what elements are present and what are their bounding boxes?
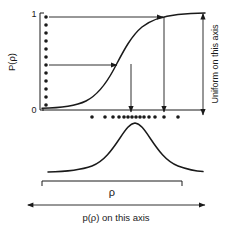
uniform-axis-label: Uniform on this axis [210,24,220,104]
mapped-dot [134,115,138,119]
uniform-dot [44,95,48,99]
uniform-sample-dots-vertical [44,15,48,107]
mapped-dot [138,115,142,119]
figure-container: P(ρ) 1 0 [0,0,232,227]
pdf-gaussian-curve [48,123,203,172]
pdf-axis-label: p(ρ) on this axis [82,212,149,223]
uniform-axis-annotation: Uniform on this axis [203,14,220,115]
uniform-dot [44,31,48,35]
mapped-sample-dots-horizontal [90,115,180,119]
mapped-dot [111,115,115,119]
mapped-dot [153,115,157,119]
y-axis-label-group: P(ρ) [6,53,17,71]
mapping-arrows-vertical [131,17,164,112]
figure-svg: P(ρ) 1 0 [0,0,232,227]
mapped-dot [126,115,130,119]
mapped-dot [103,115,107,119]
uniform-dot [44,23,48,27]
rho-bracket-label: ρ [109,186,115,198]
mapped-dot [130,115,134,119]
pdf-axis-annotation: p(ρ) on this axis [28,205,205,223]
y-tick-label-bottom: 0 [31,105,36,115]
uniform-dot [44,71,48,75]
uniform-dot [44,87,48,91]
rho-bracket-group: ρ [42,181,182,198]
y-axis-bracket [40,13,44,110]
cdf-sigmoid-curve [42,13,205,108]
uniform-dot [44,15,48,19]
mapped-dot [122,115,126,119]
uniform-dot [44,39,48,43]
uniform-dot [44,103,48,107]
uniform-dot [44,79,48,83]
mapped-dot [162,115,166,119]
mapped-dot [142,115,146,119]
mapped-dot [176,115,180,119]
mapped-dot [117,115,121,119]
mapped-dot [147,115,151,119]
uniform-dot [44,63,48,67]
uniform-dot [44,55,48,59]
y-tick-label-top: 1 [31,9,36,19]
uniform-dot [44,47,48,51]
y-axis-label: P(ρ) [6,53,17,71]
mapped-dot [90,115,94,119]
